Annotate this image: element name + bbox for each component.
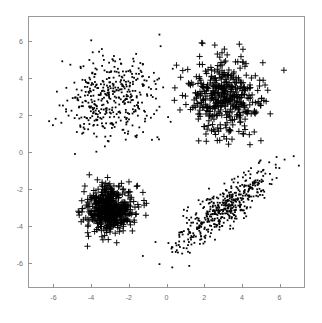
series-cluster-upper-left	[48, 34, 173, 155]
y-tick-mark	[28, 226, 32, 227]
scatter-plot-figure: -6-4-20246 -6-4-20246	[0, 0, 322, 323]
x-tick-mark	[204, 284, 205, 288]
y-tick-label: -6	[7, 259, 23, 268]
x-tick-label: -4	[79, 293, 103, 302]
y-tick-label: 4	[7, 74, 23, 83]
x-tick-mark	[280, 284, 281, 288]
y-tick-mark	[28, 78, 32, 79]
x-tick-label: 4	[230, 293, 254, 302]
data-points-layer	[29, 17, 304, 287]
y-tick-mark	[28, 152, 32, 153]
x-tick-label: 6	[268, 293, 292, 302]
plot-area	[28, 16, 305, 288]
x-tick-label: 0	[155, 293, 179, 302]
y-tick-label: -4	[7, 222, 23, 231]
x-tick-label: -6	[41, 293, 65, 302]
y-tick-label: -2	[7, 185, 23, 194]
series-cluster-lower-left	[75, 172, 149, 250]
x-tick-label: 2	[192, 293, 216, 302]
y-tick-label: 6	[7, 37, 23, 46]
series-cluster-lower-right	[142, 155, 300, 268]
x-tick-mark	[242, 284, 243, 288]
x-tick-mark	[167, 284, 168, 288]
x-tick-mark	[53, 284, 54, 288]
x-tick-label: -2	[117, 293, 141, 302]
y-tick-label: 2	[7, 111, 23, 120]
series-cluster-upper-right	[171, 40, 287, 148]
y-tick-label: 0	[7, 148, 23, 157]
x-tick-mark	[129, 284, 130, 288]
x-tick-mark	[91, 284, 92, 288]
y-tick-mark	[28, 263, 32, 264]
y-tick-mark	[28, 189, 32, 190]
y-tick-mark	[28, 115, 32, 116]
y-tick-mark	[28, 41, 32, 42]
